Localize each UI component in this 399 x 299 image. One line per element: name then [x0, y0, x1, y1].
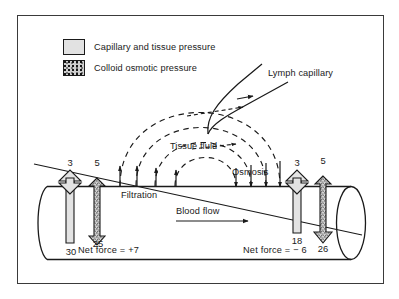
value-venous-tissue-osmotic: 5 — [315, 155, 331, 166]
value-venous-tissue-pressure: 3 — [289, 157, 305, 168]
arterial-tissue-pressure-arrow — [59, 170, 81, 243]
label-filtration: Filtration — [121, 190, 157, 200]
label-tissue-fluid: Tissue fluid — [170, 141, 217, 151]
net-force-arterial: Net force = +7 — [78, 245, 139, 255]
label-blood-flow: Blood flow — [176, 206, 219, 216]
value-arterial-tissue-osmotic: 5 — [89, 157, 105, 168]
value-arterial-tissue-pressure: 3 — [62, 157, 78, 168]
label-lymph-capillary: Lymph capillary — [268, 68, 333, 78]
tissue-fluid-arc-inner — [175, 158, 236, 187]
capillary-right-opening — [337, 187, 366, 260]
venous-tissue-pressure-arrow — [286, 170, 308, 233]
filtration-arrow-group — [120, 166, 176, 186]
pressure-gradient-line — [34, 164, 362, 235]
figure-root: Capillary and tissue pressure Colloid os… — [0, 0, 399, 299]
arterial-osmotic-shaft — [89, 178, 105, 245]
capillary-left-cap — [38, 187, 47, 260]
net-force-venous: Net force = − 6 — [243, 245, 307, 255]
lymph-flow-arrow-group — [237, 96, 253, 99]
label-osmosis: Osmosis — [232, 167, 268, 177]
value-venous-plasma-osmotic: 26 — [313, 243, 333, 254]
arterial-osmotic-arrow — [89, 178, 105, 245]
lymph-flow-arrow — [237, 96, 253, 99]
